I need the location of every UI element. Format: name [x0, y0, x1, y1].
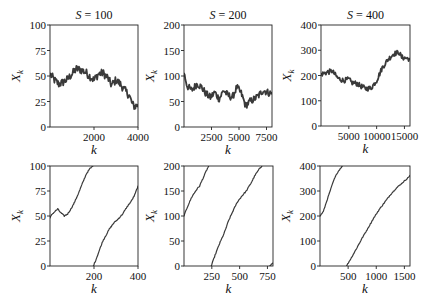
- panel-title: S = 100: [76, 8, 113, 22]
- data-line: [184, 73, 272, 107]
- y-axis-label: Xk: [8, 209, 25, 223]
- data-line: [211, 166, 262, 266]
- y-tick-label: 100: [300, 235, 317, 247]
- y-tick-label: 50: [169, 235, 181, 247]
- data-line: [93, 186, 138, 266]
- panel-title: S = 400: [347, 8, 384, 22]
- x-tick-label: 500: [231, 270, 248, 282]
- trace-group: [321, 51, 410, 91]
- trace-group: [50, 66, 138, 109]
- y-tick-label: 50: [35, 210, 47, 222]
- trace-group: [320, 166, 410, 266]
- y-tick-label: 50: [35, 70, 47, 82]
- x-tick-label: 1000: [365, 270, 388, 282]
- panel-bottom-right: 010020030040050010001500kXk: [278, 160, 416, 296]
- y-tick-label: 150: [164, 185, 181, 197]
- y-tick-label: 0: [41, 260, 47, 272]
- x-tick-label: 500: [340, 270, 357, 282]
- axes-frame: [184, 25, 272, 127]
- trace-group: [50, 166, 138, 266]
- y-tick-label: 75: [35, 45, 47, 57]
- y-tick-label: 25: [35, 96, 47, 108]
- panel-bottom-middle: 050100150200250500750kXk: [142, 160, 276, 296]
- y-tick-label: 400: [300, 160, 317, 172]
- y-tick-label: 300: [301, 44, 318, 56]
- x-tick-label: 5000: [338, 130, 361, 142]
- y-tick-label: 25: [35, 235, 47, 247]
- y-tick-label: 50: [169, 96, 181, 108]
- data-line: [50, 66, 138, 109]
- y-axis-label: Xk: [8, 69, 25, 83]
- y-tick-label: 200: [300, 210, 317, 222]
- y-tick-label: 150: [164, 45, 181, 57]
- trace-group: [184, 166, 273, 266]
- y-tick-label: 200: [301, 70, 318, 82]
- data-line: [184, 166, 209, 216]
- y-tick-label: 200: [164, 19, 181, 31]
- x-tick-label: 1500: [393, 270, 416, 282]
- x-axis-label: k: [363, 141, 369, 156]
- x-axis-label: k: [362, 281, 368, 296]
- trace-group: [184, 73, 272, 107]
- y-tick-label: 75: [35, 185, 47, 197]
- x-tick-label: 2500: [201, 131, 224, 143]
- x-tick-label: 5000: [228, 131, 251, 143]
- x-axis-label: k: [225, 142, 231, 157]
- data-line: [320, 166, 343, 216]
- axes-frame: [184, 166, 273, 266]
- y-axis-label: Xk: [142, 209, 159, 223]
- x-axis-label: k: [91, 281, 97, 296]
- panel-title: S = 200: [210, 8, 247, 22]
- y-axis-label: Xk: [142, 69, 159, 83]
- x-axis-label: k: [91, 142, 97, 157]
- x-tick-label: 7500: [256, 131, 279, 143]
- y-tick-label: 100: [164, 210, 181, 222]
- y-tick-label: 400: [301, 19, 318, 31]
- x-tick-label: 400: [130, 270, 147, 282]
- panel-top-left: 025507510020004000kXkS = 100: [8, 8, 150, 157]
- x-tick-label: 15000: [391, 130, 419, 142]
- x-axis-label: k: [226, 281, 232, 296]
- y-tick-label: 100: [30, 19, 47, 31]
- y-tick-label: 0: [311, 260, 317, 272]
- axes-frame: [50, 25, 138, 127]
- panel-bottom-left: 0255075100200400kXk: [8, 160, 147, 296]
- y-tick-label: 0: [175, 121, 181, 133]
- panel-top-right: 010020030040050001000015000kXkS = 400: [279, 8, 419, 156]
- y-tick-label: 0: [312, 120, 318, 132]
- x-tick-label: 750: [259, 270, 276, 282]
- x-tick-label: 4000: [127, 131, 150, 143]
- y-tick-label: 100: [164, 70, 181, 82]
- y-tick-label: 0: [175, 260, 181, 272]
- y-axis-label: Xk: [279, 69, 296, 83]
- y-tick-label: 100: [301, 95, 318, 107]
- data-line: [346, 176, 410, 267]
- x-tick-label: 250: [204, 270, 221, 282]
- y-tick-label: 200: [164, 160, 181, 172]
- data-line: [50, 166, 93, 218]
- y-tick-label: 0: [41, 121, 47, 133]
- y-axis-label: Xk: [278, 209, 295, 223]
- axes-frame: [50, 166, 138, 266]
- y-tick-label: 100: [30, 160, 47, 172]
- panel-top-middle: 050100150200250050007500kXkS = 200: [142, 8, 278, 157]
- data-line: [321, 51, 410, 91]
- y-tick-label: 300: [300, 185, 317, 197]
- axes-frame: [321, 25, 410, 126]
- figure: 025507510020004000kXkS = 100 05010015020…: [0, 0, 427, 306]
